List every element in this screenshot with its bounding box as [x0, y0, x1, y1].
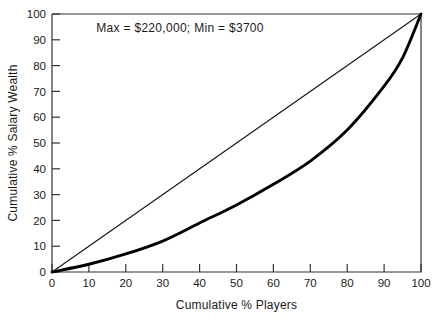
y-tick-label: 100: [27, 8, 46, 20]
x-tick-label: 70: [304, 277, 317, 289]
y-tick-label: 20: [33, 215, 46, 227]
y-tick-label: 70: [33, 86, 46, 98]
x-tick-label: 10: [83, 277, 96, 289]
y-axis-title: Cumulative % Salary Wealth: [6, 64, 20, 221]
y-tick-label: 40: [33, 163, 46, 175]
x-tick-label: 90: [378, 277, 391, 289]
x-tick-label: 40: [193, 277, 206, 289]
x-tick-label: 60: [267, 277, 280, 289]
y-tick-label: 0: [40, 266, 46, 278]
chart-canvas: 0 10 20 30 40 50 60 70 80 90 100 0 10 20…: [0, 0, 438, 320]
x-tick-label: 30: [156, 277, 169, 289]
y-tick-label: 30: [33, 189, 46, 201]
x-tick-label: 20: [119, 277, 132, 289]
x-tick-label: 50: [230, 277, 243, 289]
y-tick-label: 60: [33, 111, 46, 123]
x-tick-label: 80: [341, 277, 354, 289]
y-tick-label: 80: [33, 60, 46, 72]
max-min-annotation: Max = $220,000; Min = $3700: [96, 21, 264, 35]
x-tick-label: 0: [49, 277, 55, 289]
x-axis-title: Cumulative % Players: [176, 298, 297, 312]
y-tick-label: 50: [33, 137, 46, 149]
lorenz-curve-chart: 0 10 20 30 40 50 60 70 80 90 100 0 10 20…: [0, 0, 438, 320]
x-tick-label: 100: [411, 277, 430, 289]
y-tick-label: 90: [33, 34, 46, 46]
y-tick-label: 10: [33, 240, 46, 252]
